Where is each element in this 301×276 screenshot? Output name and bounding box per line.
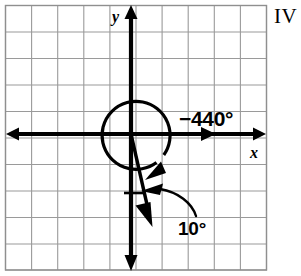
angle-diagram-figure: y x −440° 10° IV: [0, 0, 301, 276]
terminal-ray-line: [131, 134, 148, 209]
leader-curve-line: [160, 189, 196, 216]
y-axis-label: y: [112, 9, 119, 25]
terminal-ray-arrowhead: [136, 202, 153, 227]
x-axis-label: x: [250, 145, 258, 161]
quadrant-label: IV: [274, 6, 297, 27]
terminal-ray-group: [131, 134, 153, 227]
grid: [5, 5, 267, 270]
coordinate-plane-svg: [0, 0, 301, 276]
reference-angle-label: 10°: [178, 219, 206, 238]
rotation-angle-label: −440°: [179, 108, 233, 129]
reference-angle-leader: [124, 184, 196, 217]
